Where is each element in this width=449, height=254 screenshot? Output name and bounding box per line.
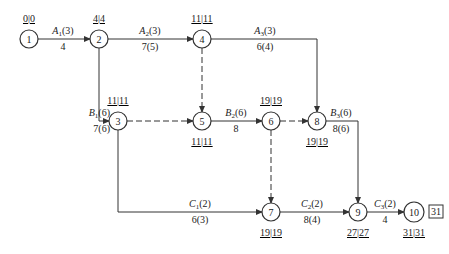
node-6-number: 6 [269,116,274,127]
activity-c1-duration: 6(3) [192,214,209,226]
node-10-box-value: 31 [431,206,441,217]
node-8-times: 19|19 [306,136,328,147]
activity-b3-label: B3(6) [330,107,351,120]
activity-c2-label: C2(2) [301,198,323,211]
node-7-number: 7 [269,207,274,218]
activity-b3-duration: 8(6) [333,123,350,135]
activity-a1-label: A1(3) [51,25,73,38]
activity-a1-duration: 4 [61,41,66,52]
activity-c2-duration: 8(4) [304,214,321,226]
node-5-times: 11|11 [191,136,212,147]
node-4-times: 11|11 [191,13,212,24]
activity-c1-label: C1(2) [189,198,211,211]
network-diagram: 1 2 4 3 5 6 8 7 9 10 0|0 4|4 11|11 11|11… [0,0,449,254]
node-10-number: 10 [409,207,419,218]
activity-b1-duration: 7(6) [93,123,110,135]
node-4-number: 4 [200,34,205,45]
activity-a2-label: A2(3) [138,25,160,38]
activity-a3-duration: 6(4) [257,41,274,53]
activity-c3-label: C3(2) [374,198,396,211]
node-2-times: 4|4 [93,13,105,24]
activity-a2-duration: 7(5) [142,41,159,53]
node-3-times: 11|11 [107,95,128,106]
node-7-times: 19|19 [260,227,282,238]
activity-b2-duration: 8 [234,123,239,134]
node-1-number: 1 [27,34,32,45]
node-9-number: 9 [356,207,361,218]
node-10-times: 31|31 [403,227,425,238]
node-8-number: 8 [315,116,320,127]
activity-a3-label: A3(3) [253,25,275,38]
node-5-number: 5 [200,116,205,127]
node-9-times: 27|27 [347,227,369,238]
node-6-times: 19|19 [260,95,282,106]
node-2-number: 2 [97,34,102,45]
activity-c3-duration: 4 [383,214,388,225]
node-1-times: 0|0 [23,13,35,24]
activity-b2-label: B2(6) [225,107,246,120]
node-3-number: 3 [116,116,121,127]
